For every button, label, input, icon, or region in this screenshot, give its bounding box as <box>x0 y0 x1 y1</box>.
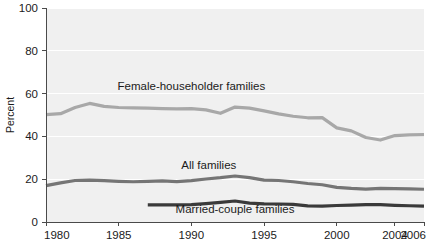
y-axis-title: Percent <box>4 97 16 133</box>
x-tick-label-1985: 1985 <box>106 229 132 241</box>
series-label-0: Female-householder families <box>118 80 266 92</box>
y-tick-label-80: 80 <box>25 45 38 57</box>
y-tick-label-40: 40 <box>25 130 38 142</box>
chart-canvas: 020406080100 198019851990199520002004200… <box>0 0 438 247</box>
x-tick-label-1990: 1990 <box>179 229 205 241</box>
y-axis-ticks: 020406080100 <box>19 2 46 228</box>
y-tick-label-20: 20 <box>25 173 38 185</box>
x-tick-label-2006: 2006 <box>400 229 426 241</box>
x-tick-label-1995: 1995 <box>251 229 277 241</box>
y-tick-label-100: 100 <box>19 2 38 14</box>
x-axis-ticks: 1980198519901995200020042006 <box>44 222 426 241</box>
y-tick-label-60: 60 <box>25 88 38 100</box>
series-label-2: Married-couple families <box>176 203 295 215</box>
y-tick-label-0: 0 <box>32 216 38 228</box>
x-tick-label-2000: 2000 <box>324 229 350 241</box>
poverty-rate-line-chart: 020406080100 198019851990199520002004200… <box>0 0 438 247</box>
series-label-1: All families <box>181 159 236 171</box>
x-tick-label-1980: 1980 <box>44 229 70 241</box>
